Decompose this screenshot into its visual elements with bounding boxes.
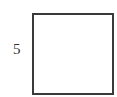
side-length-label: 5 [13, 42, 21, 57]
square-shape [32, 13, 114, 95]
